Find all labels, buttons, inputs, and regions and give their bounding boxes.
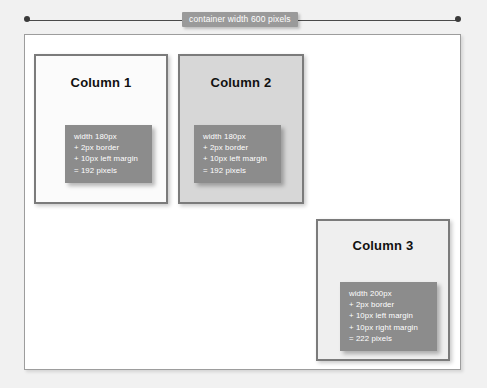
container-box: Column 1 width 180px + 2px border + 10px…	[24, 34, 461, 370]
column-3-annotation-line-4: + 10px right margin	[349, 322, 428, 333]
column-1-annotation-line-3: + 10px left margin	[74, 153, 143, 164]
column-3-annotation-line-1: width 200px	[349, 288, 428, 299]
column-box-3: Column 3 width 200px + 2px border + 10px…	[316, 219, 450, 361]
column-3-title: Column 3	[318, 238, 448, 253]
column-1-annotation-line-2: + 2px border	[74, 142, 143, 153]
column-2-annotation-line-3: + 10px left margin	[203, 153, 272, 164]
measurement-right-endpoint-icon	[455, 16, 461, 22]
column-2-annotation-line-4: = 192 pixels	[203, 165, 272, 176]
column-3-annotation-line-5: = 222 pixels	[349, 333, 428, 344]
column-box-2: Column 2 width 180px + 2px border + 10px…	[178, 54, 304, 204]
column-1-annotation-line-1: width 180px	[74, 131, 143, 142]
column-1-annotation-line-4: = 192 pixels	[74, 165, 143, 176]
column-2-title: Column 2	[180, 75, 302, 90]
column-3-annotation-line-3: + 10px left margin	[349, 310, 428, 321]
column-3-annotation-line-2: + 2px border	[349, 299, 428, 310]
column-2-annotation-line-1: width 180px	[203, 131, 272, 142]
column-2-annotation: width 180px + 2px border + 10px left mar…	[194, 125, 281, 183]
column-2-annotation-line-2: + 2px border	[203, 142, 272, 153]
column-1-title: Column 1	[36, 75, 166, 90]
container-width-label: container width 600 pixels	[182, 12, 298, 27]
column-box-1: Column 1 width 180px + 2px border + 10px…	[34, 54, 168, 204]
column-3-annotation: width 200px + 2px border + 10px left mar…	[340, 282, 437, 351]
column-1-annotation: width 180px + 2px border + 10px left mar…	[65, 125, 152, 183]
measurement-left-endpoint-icon	[24, 16, 30, 22]
